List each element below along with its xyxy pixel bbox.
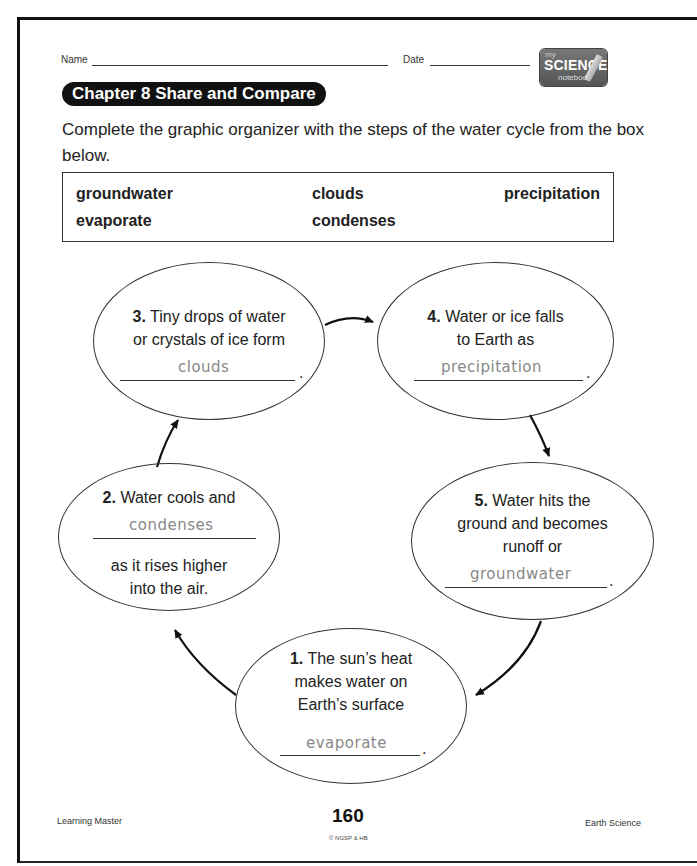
arrow-1-to-2	[175, 630, 236, 695]
step-1-line-3: Earth’s surface	[236, 693, 466, 716]
step-2-number: 2.	[103, 489, 116, 506]
step-1-answer-line	[280, 755, 420, 756]
page-number: 160	[332, 805, 364, 827]
step-2-answer-line	[93, 538, 256, 539]
step-5-answer-line	[445, 587, 607, 588]
step-4-text: 4. Water or ice falls to Earth as	[378, 305, 613, 351]
step-2-line-1: Water cools and	[120, 489, 235, 506]
arrow-3-to-4	[325, 318, 373, 325]
step-2-answer[interactable]: condenses	[129, 516, 214, 534]
footer-learning-master: Learning Master	[57, 816, 122, 826]
step-2-after-1: as it rises higher	[59, 554, 279, 577]
step-3-line-1: Tiny drops of water	[150, 308, 285, 325]
footer-earth-science: Earth Science	[585, 818, 641, 828]
step-5-line-2: ground and becomes	[412, 512, 653, 535]
step-5-oval: 5. Water hits the ground and becomes run…	[411, 462, 654, 620]
step-1-oval: 1. The sun’s heat makes water on Earth’s…	[235, 628, 467, 784]
step-4-line-1: Water or ice falls	[445, 308, 564, 325]
step-1-answer[interactable]: evaporate	[306, 734, 387, 752]
step-4-answer-line	[414, 380, 583, 381]
step-3-line-2: or crystals of ice form	[94, 328, 324, 351]
step-1-line-2: makes water on	[236, 670, 466, 693]
step-3-oval: 3. Tiny drops of water or crystals of ic…	[93, 262, 325, 420]
step-2-after-2: into the air.	[59, 577, 279, 600]
step-5-line-1: Water hits the	[492, 492, 590, 509]
step-2-oval: 2. Water cools and as it rises higher in…	[58, 463, 280, 611]
arrow-4-to-5	[530, 415, 549, 456]
step-1-line-1: The sun’s heat	[307, 650, 412, 667]
step-4-answer[interactable]: precipitation	[441, 358, 542, 376]
step-5-period: .	[609, 572, 613, 590]
step-5-text: 5. Water hits the ground and becomes run…	[412, 489, 653, 558]
step-2-text: 2. Water cools and	[59, 486, 279, 509]
step-1-number: 1.	[290, 650, 303, 667]
step-4-oval: 4. Water or ice falls to Earth as	[377, 262, 614, 420]
step-1-period: .	[422, 740, 426, 758]
step-5-number: 5.	[475, 492, 488, 509]
step-3-number: 3.	[133, 308, 146, 325]
step-4-line-2: to Earth as	[378, 328, 613, 351]
copyright: © NGSP & HB	[329, 835, 368, 841]
step-5-answer[interactable]: groundwater	[470, 565, 571, 583]
step-4-number: 4.	[427, 308, 440, 325]
step-3-answer[interactable]: clouds	[178, 358, 229, 376]
arrow-2-to-3	[157, 420, 178, 467]
step-3-period: .	[299, 364, 303, 382]
step-3-answer-line	[120, 380, 295, 381]
step-4-period: .	[586, 364, 590, 382]
step-2-after: as it rises higher into the air.	[59, 554, 279, 600]
step-5-line-3: runoff or	[412, 535, 653, 558]
arrow-5-to-1	[476, 621, 541, 695]
step-3-text: 3. Tiny drops of water or crystals of ic…	[94, 305, 324, 351]
step-1-text: 1. The sun’s heat makes water on Earth’s…	[236, 647, 466, 716]
